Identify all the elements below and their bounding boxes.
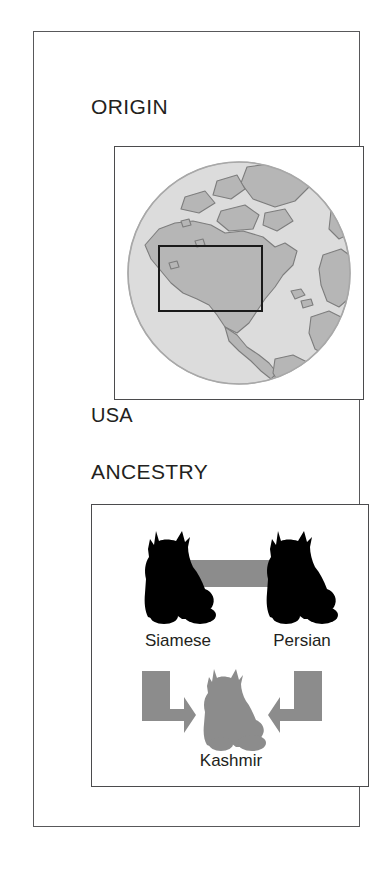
offspring-row <box>92 663 368 753</box>
parent-label-siamese: Siamese <box>108 631 248 651</box>
parent-siamese <box>136 523 220 627</box>
parent-persian <box>258 523 342 627</box>
origin-caption: USA <box>91 404 133 427</box>
infographic-card-page: ORIGIN <box>0 0 392 881</box>
cat-silhouette-icon <box>204 669 266 751</box>
ancestry-panel: Siamese Persian <box>91 504 369 787</box>
offspring-label-kashmir: Kashmir <box>92 751 370 771</box>
parent-label-persian: Persian <box>232 631 372 651</box>
origin-map-panel <box>114 146 364 400</box>
parent-breeds-row <box>92 515 368 633</box>
ancestry-section-title: ANCESTRY <box>91 460 208 484</box>
globe-icon <box>125 159 353 387</box>
offspring-kashmir <box>197 663 269 753</box>
usa-highlight-rectangle <box>158 245 263 312</box>
origin-section-title: ORIGIN <box>91 95 168 119</box>
cat-silhouette-icon <box>267 531 338 624</box>
card-outer-frame: ORIGIN <box>33 31 360 827</box>
arrow-left-icon <box>268 669 324 749</box>
cat-silhouette-icon <box>145 531 216 624</box>
arrow-right-icon <box>140 669 196 749</box>
